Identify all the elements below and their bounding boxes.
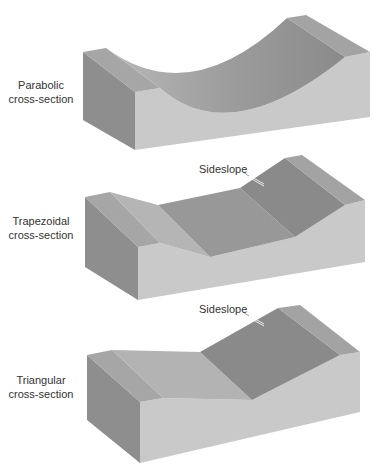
parabolic-label-line2: cross-section (6, 92, 76, 106)
parabolic-block (83, 15, 370, 150)
triangular-block (87, 305, 360, 463)
parabolic-label-line1: Parabolic (6, 78, 76, 92)
trapezoidal-label-line1: Trapezoidal (4, 214, 78, 228)
triangular-label-line1: Triangular (4, 373, 78, 387)
triangular-sideslope-callout: Sideslope (199, 303, 247, 315)
parabolic-label: Parabolic cross-section (6, 78, 76, 106)
trapezoidal-sideslope-callout: Sideslope (199, 163, 247, 175)
trapezoidal-label: Trapezoidal cross-section (4, 214, 78, 242)
triangular-label-line2: cross-section (4, 387, 78, 401)
triangular-label: Triangular cross-section (4, 373, 78, 401)
trapezoidal-block (85, 155, 365, 300)
trapezoidal-label-line2: cross-section (4, 228, 78, 242)
